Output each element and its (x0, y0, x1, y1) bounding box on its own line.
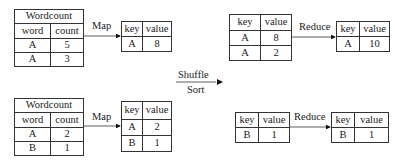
cell: A (15, 53, 51, 67)
header-key: key (332, 113, 355, 128)
reduce-label-1: Reduce (299, 22, 331, 33)
header-key: key (337, 22, 360, 37)
cell: A (122, 37, 143, 52)
map-label-2: Map (92, 112, 111, 123)
header-value: value (259, 113, 290, 128)
mapreduce-diagram: Wordcount word count A 5 A 3 Map key val… (0, 0, 395, 166)
header-key: key (122, 22, 143, 37)
table-title: Wordcount (15, 99, 84, 113)
cell: A (230, 31, 261, 46)
cell: 2 (143, 120, 172, 136)
header-word: word (15, 113, 51, 128)
header-key: key (236, 113, 259, 128)
shuffle-arrowhead (217, 79, 223, 85)
cell: 1 (259, 128, 290, 143)
shuffle-label: Shuffle (178, 70, 209, 81)
header-value: value (143, 22, 172, 37)
cell: B (15, 142, 51, 156)
map-label-1: Map (92, 21, 111, 32)
cell: 1 (143, 136, 172, 152)
cell: 1 (51, 142, 84, 156)
map-output-table-2: key value A 2 B 1 (121, 101, 172, 152)
header-value: value (143, 102, 172, 120)
cell: B (122, 136, 143, 152)
header-value: value (360, 22, 390, 37)
cell: 5 (51, 39, 84, 53)
cell: 8 (143, 37, 172, 52)
cell: 10 (360, 37, 390, 52)
cell: B (332, 128, 355, 143)
cell: 3 (51, 53, 84, 67)
cell: A (230, 46, 261, 61)
cell: A (15, 128, 51, 142)
cell: A (337, 37, 360, 52)
cell: 1 (355, 128, 389, 143)
header-value: value (355, 113, 389, 128)
cell: 8 (261, 31, 292, 46)
wordcount-table-2: Wordcount word count A 2 B 1 (14, 98, 84, 156)
header-word: word (15, 24, 51, 39)
header-key: key (122, 102, 143, 120)
reduce-label-2: Reduce (294, 112, 326, 123)
cell: B (236, 128, 259, 143)
reduce-output-table-2: key value B 1 (331, 112, 389, 143)
cell: 2 (261, 46, 292, 61)
cell: 2 (51, 128, 84, 142)
cell: A (122, 120, 143, 136)
reduce-output-table-1: key value A 10 (336, 21, 390, 52)
reduce-input-table-2: key value B 1 (235, 112, 290, 143)
header-key: key (230, 15, 261, 31)
header-count: count (51, 113, 84, 128)
reduce-input-table-1: key value A 8 A 2 (229, 14, 292, 61)
header-value: value (261, 15, 292, 31)
map-output-table-1: key value A 8 (121, 21, 172, 52)
sort-label: Sort (187, 85, 205, 96)
cell: A (15, 39, 51, 53)
header-count: count (51, 24, 84, 39)
wordcount-table-1: Wordcount word count A 5 A 3 (14, 9, 84, 67)
table-title: Wordcount (15, 10, 84, 24)
